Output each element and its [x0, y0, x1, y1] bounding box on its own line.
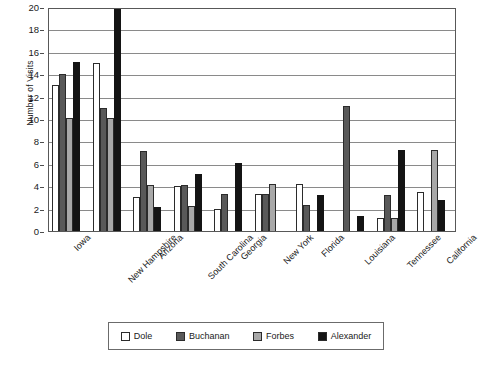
legend-swatch-buchanan — [176, 332, 185, 341]
y-tick-mark — [40, 8, 44, 9]
legend-swatch-forbes — [253, 332, 262, 341]
bar-arizona-dole — [133, 197, 140, 231]
legend-label: Buchanan — [189, 331, 230, 341]
y-tick-mark — [40, 75, 44, 76]
legend-swatch-alexander — [318, 332, 327, 341]
bar-new-hampshire-dole — [93, 63, 100, 231]
plot-area — [48, 8, 456, 232]
bar-group-iowa — [49, 9, 90, 231]
bar-florida-buchanan — [303, 205, 310, 231]
bar-tennessee-buchanan — [384, 195, 391, 231]
bar-california-alexander — [438, 200, 445, 231]
bar-georgia-alexander — [235, 163, 242, 231]
x-axis-label-tennessee: Tennessee — [406, 233, 443, 270]
bar-california-dole — [417, 192, 424, 231]
bar-group-new-york — [252, 9, 293, 231]
y-tick-mark — [40, 232, 44, 233]
legend-swatch-dole — [121, 332, 130, 341]
y-tick-label: 6 — [34, 160, 39, 170]
bar-new-hampshire-buchanan — [100, 108, 107, 231]
x-axis-label-florida: Florida — [320, 233, 346, 259]
y-tick-label: 18 — [28, 26, 39, 36]
bar-florida-dole — [296, 184, 303, 231]
bar-group-florida — [293, 9, 334, 231]
bar-arizona-alexander — [154, 207, 161, 231]
legend-label: Forbes — [266, 331, 294, 341]
legend-item-buchanan[interactable]: Buchanan — [176, 331, 230, 341]
bar-iowa-forbes — [66, 118, 73, 231]
bar-georgia-dole — [214, 209, 221, 231]
bar-south-carolina-alexander — [195, 174, 202, 231]
bar-group-georgia — [211, 9, 252, 231]
y-tick-mark — [40, 210, 44, 211]
legend-label: Dole — [134, 331, 153, 341]
legend-item-alexander[interactable]: Alexander — [318, 331, 372, 341]
legend-label: Alexander — [331, 331, 372, 341]
y-tick-label: 4 — [34, 182, 39, 192]
y-tick-mark — [40, 98, 44, 99]
y-tick-mark — [40, 165, 44, 166]
bar-arizona-forbes — [147, 185, 154, 231]
bar-iowa-buchanan — [59, 74, 66, 231]
x-axis-label-louisiana: Louisiana — [364, 233, 398, 267]
bar-south-carolina-buchanan — [181, 185, 188, 231]
y-tick-label: 10 — [28, 115, 39, 125]
bar-group-arizona — [130, 9, 171, 231]
bar-new-york-buchanan — [262, 194, 269, 231]
bar-florida-alexander — [317, 195, 324, 231]
y-tick-label: 14 — [28, 70, 39, 80]
bar-iowa-alexander — [73, 62, 80, 231]
bar-georgia-buchanan — [221, 194, 228, 231]
bar-california-forbes — [431, 150, 438, 231]
bar-arizona-buchanan — [140, 151, 147, 231]
y-tick-label: 20 — [28, 3, 39, 13]
bar-south-carolina-forbes — [188, 206, 195, 231]
y-tick-mark — [40, 53, 44, 54]
bar-group-new-hampshire — [90, 9, 131, 231]
y-tick-mark — [40, 120, 44, 121]
bar-iowa-dole — [52, 85, 59, 231]
legend-item-forbes[interactable]: Forbes — [253, 331, 294, 341]
y-tick-label: 12 — [28, 93, 39, 103]
bar-new-york-dole — [255, 194, 262, 231]
y-tick-mark — [40, 142, 44, 143]
x-axis-label-california: California — [445, 233, 478, 266]
legend-item-dole[interactable]: Dole — [121, 331, 153, 341]
y-tick-label: 8 — [34, 138, 39, 148]
x-axis-label-new-york: New York — [282, 233, 315, 266]
bar-group-california — [414, 9, 455, 231]
y-axis-ticks: 02468101214161820 — [0, 8, 44, 232]
bar-tennessee-forbes — [391, 218, 398, 231]
bar-new-hampshire-alexander — [114, 8, 121, 231]
bar-new-york-forbes — [269, 184, 276, 231]
y-tick-label: 16 — [28, 48, 39, 58]
bar-new-hampshire-forbes — [107, 118, 114, 231]
chart-legend: DoleBuchananForbesAlexander — [108, 322, 384, 350]
bar-group-tennessee — [374, 9, 415, 231]
bar-group-louisiana — [333, 9, 374, 231]
bar-louisiana-buchanan — [343, 106, 350, 231]
y-tick-mark — [40, 187, 44, 188]
bar-tennessee-dole — [377, 218, 384, 231]
bar-group-south-carolina — [171, 9, 212, 231]
bar-louisiana-alexander — [357, 216, 364, 231]
x-axis-labels: IowaNew HampshireArizonaSouth CarolinaGe… — [48, 233, 456, 303]
bar-groups — [49, 9, 455, 231]
x-axis-label-iowa: Iowa — [72, 233, 92, 253]
bar-tennessee-alexander — [398, 150, 405, 231]
y-tick-label: 0 — [34, 227, 39, 237]
y-tick-mark — [40, 30, 44, 31]
bar-south-carolina-dole — [174, 186, 181, 231]
x-axis-label-arizona: Arizona — [157, 233, 185, 261]
y-tick-label: 2 — [34, 205, 39, 215]
